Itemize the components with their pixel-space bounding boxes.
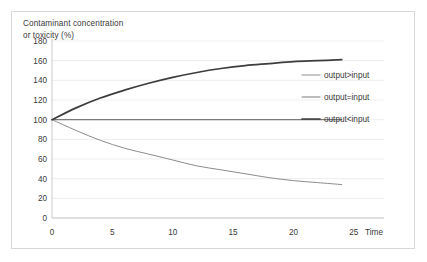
legend-label: output<input [324,115,370,124]
legend-label: output=input [324,93,370,102]
series-line [52,60,342,120]
y-tick-label: 100 [33,116,47,125]
y-tick-label: 0 [42,214,47,223]
x-axis-title: Time [365,228,383,237]
y-axis-tick-labels: 020406080100120140160180 [33,37,47,223]
x-axis-tick-labels: 0510152025 [50,228,359,237]
chart-plot-area: 020406080100120140160180 0510152025 outp… [12,12,414,248]
x-tick-label: 20 [289,228,299,237]
axis-lines [52,39,384,218]
y-tick-label: 80 [38,135,48,144]
y-tick-label: 160 [33,57,47,66]
x-tick-label: 5 [110,228,115,237]
x-tick-label: 10 [168,228,178,237]
data-series [52,60,342,185]
chart-figure: Contaminant concentration or toxicity (%… [11,11,415,249]
x-tick-label: 25 [349,228,359,237]
x-tick-label: 15 [229,228,239,237]
x-axis-name: Time [365,228,383,237]
y-tick-label: 140 [33,76,47,85]
y-tick-label: 40 [38,175,48,184]
y-tick-label: 20 [38,194,48,203]
series-line [52,120,342,185]
y-tick-label: 180 [33,37,47,46]
legend-label: output>input [324,71,370,80]
y-tick-label: 60 [38,155,48,164]
x-tick-label: 0 [50,228,55,237]
chart-legend: output>inputoutput=inputoutput<input [302,71,370,124]
y-tick-label: 120 [33,96,47,105]
gridlines [52,41,384,218]
